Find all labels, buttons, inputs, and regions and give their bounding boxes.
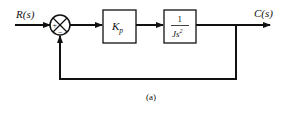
- controller-gain-subscript: p: [118, 26, 123, 35]
- plant-denominator-exponent: 2: [180, 28, 183, 34]
- plus-sign: +: [53, 21, 58, 30]
- output-label: C(s): [254, 7, 273, 20]
- plant-numerator: 1: [178, 14, 183, 24]
- controller-block: Kp: [103, 10, 136, 43]
- input-label: R(s): [15, 8, 35, 21]
- plant-block: 1 Js2: [164, 10, 196, 43]
- figure-caption: (a): [146, 92, 156, 102]
- minus-sign: −: [58, 28, 63, 37]
- block-diagram: R(s) + − Kp 1 Js2 C(s) (a): [0, 0, 290, 118]
- feedback-path: [60, 25, 236, 79]
- summing-junction: + −: [50, 15, 70, 37]
